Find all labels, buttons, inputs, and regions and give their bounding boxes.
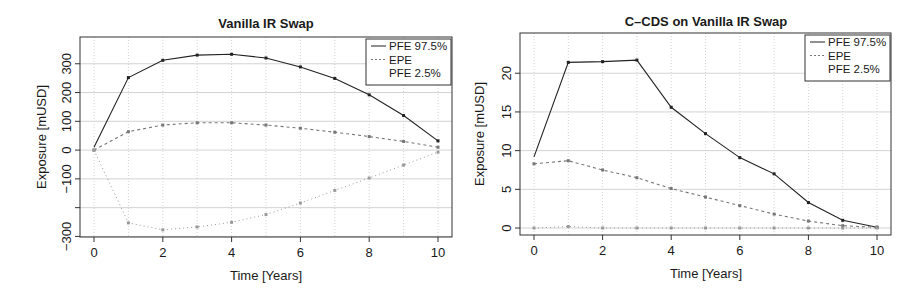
data-point [807,220,810,223]
legend-label: PFE 97.5% [389,40,447,52]
data-point [196,54,199,57]
data-point [402,140,405,143]
data-point [601,168,604,171]
chart-vanilla-ir-swap: Vanilla IR Swap 3002001000−100−300 02468… [0,0,460,297]
data-point [333,77,336,80]
x-tick-label: 4 [228,245,235,260]
data-point [704,196,707,199]
data-point [567,61,570,64]
series-epe [533,159,879,229]
y-tick-label: 200 [59,82,74,104]
data-point [127,221,130,224]
data-point [265,57,268,60]
data-point [333,131,336,134]
x-tick-label: 6 [736,243,743,258]
x-tick-label: 4 [668,243,675,258]
data-point [230,221,233,224]
data-point [704,132,707,135]
chart-ccds-vanilla-ir-swap: C–CDS on Vanilla IR Swap 05101520 024681… [460,0,921,297]
data-point [196,121,199,124]
data-point [670,187,673,190]
y-axis-label: Exposure [mUSD] [472,82,487,186]
data-point [567,159,570,162]
data-point [265,213,268,216]
x-tick-label: 0 [530,243,537,258]
data-point [601,60,604,63]
data-point [807,201,810,204]
legend: PFE 97.5%EPEPFE 2.5% [366,39,451,85]
x-tick-label: 2 [599,243,606,258]
x-tick-label: 8 [366,245,373,260]
data-point [196,225,199,228]
data-point [299,127,302,130]
x-tick-label: 10 [870,243,884,258]
data-point [567,225,570,228]
data-point [533,227,536,230]
data-point [333,189,336,192]
y-axis: 05101520 [499,66,520,232]
x-tick-label: 8 [805,243,812,258]
x-axis-label: Time [Years] [670,266,742,281]
data-point [230,121,233,124]
data-point [161,59,164,62]
data-point [738,204,741,207]
data-point [841,219,844,222]
y-tick-label: 20 [499,66,514,80]
y-tick-label: −300 [59,222,74,251]
y-tick-label: 10 [499,143,514,157]
figure: Vanilla IR Swap 3002001000−100−300 02468… [0,0,921,297]
data-point [807,227,810,230]
data-point [368,135,371,138]
data-point [161,228,164,231]
legend-label: EPE [828,50,851,62]
y-tick-label: 0 [59,146,74,153]
data-point [299,65,302,68]
legend-label: PFE 97.5% [828,36,886,48]
data-point [437,139,440,142]
x-tick-label: 0 [90,245,97,260]
data-point [704,227,707,230]
data-point [161,124,164,127]
y-tick-label: 100 [59,110,74,132]
series-pfe-2-5- [93,149,440,232]
data-point [773,213,776,216]
x-tick-label: 10 [431,245,445,260]
y-axis-label: Exposure [mUSD] [34,85,49,189]
data-point [635,227,638,230]
legend-label: PFE 2.5% [389,67,441,79]
data-point [773,227,776,230]
series-pfe-97-5- [534,59,879,229]
x-tick-label: 2 [159,245,166,260]
data-point [533,162,536,165]
data-point [437,146,440,149]
data-point [402,164,405,167]
data-point [876,227,879,230]
data-point [601,227,604,230]
x-axis: 0246810 [530,235,884,258]
data-point [773,172,776,175]
chart-title: Vanilla IR Swap [218,16,313,31]
y-axis: 3002001000−100−300 [59,53,80,251]
x-axis-label: Time [Years] [230,268,302,283]
data-point [841,227,844,230]
data-point [635,176,638,179]
data-point [299,202,302,205]
legend: PFE 97.5%EPEPFE 2.5% [805,35,890,81]
data-point [738,156,741,159]
data-point [230,53,233,56]
y-tick-label: 300 [59,53,74,75]
data-point [368,93,371,96]
data-point [670,106,673,109]
data-point [127,76,130,79]
data-point [93,149,96,152]
data-point [265,124,268,127]
y-tick-label: 5 [499,186,514,193]
data-point [437,151,440,154]
y-tick-label: −100 [59,164,74,193]
data-point [402,114,405,117]
legend-label: EPE [389,54,412,66]
data-point [670,227,673,230]
data-point [738,227,741,230]
x-tick-label: 6 [297,245,304,260]
data-point [635,59,638,62]
